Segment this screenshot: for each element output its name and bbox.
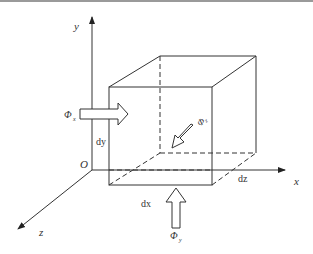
svg-text:Φ: Φ <box>64 109 72 120</box>
flux-y-arrow <box>166 188 186 228</box>
svg-text:x: x <box>72 116 76 122</box>
x-axis-label: x <box>293 175 299 187</box>
svg-text:Φ: Φ <box>170 230 178 241</box>
y-axis-label: y <box>73 20 79 32</box>
control-volume-diagram: y x z O dy dx dz Φ x Φ z Φ y <box>0 0 313 254</box>
svg-text:y: y <box>178 237 182 243</box>
cube <box>109 56 256 185</box>
cube-edge-top-right <box>212 56 256 87</box>
cube-edge-top-left <box>109 56 160 87</box>
origin-label: O <box>80 158 88 170</box>
z-axis-label: z <box>38 226 44 238</box>
dx-label: dx <box>141 198 151 209</box>
flux-y-label: Φ y <box>170 230 182 243</box>
flux-z-label: Φ z <box>195 116 209 128</box>
axes <box>18 17 285 229</box>
flux-z-arrow <box>172 124 193 148</box>
flux-x-label: Φ x <box>64 109 76 122</box>
dz-label: dz <box>238 173 248 184</box>
flux-x-arrow <box>80 103 128 125</box>
z-axis <box>18 170 92 229</box>
dy-label: dy <box>96 136 106 147</box>
cube-hidden-edges <box>109 56 256 185</box>
